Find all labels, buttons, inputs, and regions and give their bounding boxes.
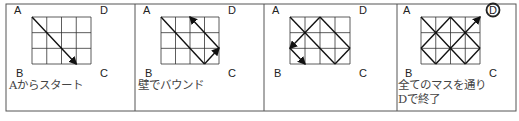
- corner-label-d: D: [100, 4, 108, 16]
- arrow-icon: [290, 48, 305, 64]
- panel-continue: ABCD: [264, 4, 367, 111]
- corner-label-c: C: [489, 67, 497, 79]
- diagram-canvas: ABCDAからスタートABCD壁でバウンドABCDABCD全てのマスを通りDで終…: [0, 0, 519, 121]
- corner-label-c: C: [228, 67, 236, 79]
- corner-label-a: A: [143, 4, 151, 16]
- arrow-icon: [32, 17, 76, 64]
- corner-label-d: D: [228, 4, 236, 16]
- panel-caption: Aからスタート: [8, 78, 83, 92]
- path-segment: [161, 17, 205, 64]
- corner-label-a: A: [272, 4, 280, 16]
- panel-caption: Dで終了: [398, 92, 440, 106]
- arrow-icon: [205, 48, 220, 64]
- corner-label-c: C: [100, 67, 108, 79]
- panel-caption: 全てのマスを通り: [398, 78, 486, 92]
- panel-bounce: ABCD壁でバウンド: [135, 4, 236, 111]
- corner-label-c: C: [359, 67, 367, 79]
- path-segment: [335, 48, 350, 64]
- panel-caption: 壁でバウンド: [138, 78, 204, 92]
- corner-label-d: D: [359, 4, 367, 16]
- panel-finish: ABCD全てのマスを通りDで終了: [397, 4, 500, 112]
- path-segment: [465, 48, 480, 64]
- ball-path: [32, 17, 76, 64]
- corner-label-b: B: [274, 67, 281, 79]
- panel-start: ABCDAからスタート: [8, 4, 108, 92]
- corner-label-a: A: [403, 4, 411, 16]
- path-segment: [421, 48, 436, 64]
- corner-label-a: A: [14, 4, 22, 16]
- corner-label-d: D: [489, 4, 497, 16]
- grid: [32, 17, 91, 64]
- diagonal-path-diagram: ABCDAからスタートABCD壁でバウンドABCDABCD全てのマスを通りDで終…: [0, 0, 519, 121]
